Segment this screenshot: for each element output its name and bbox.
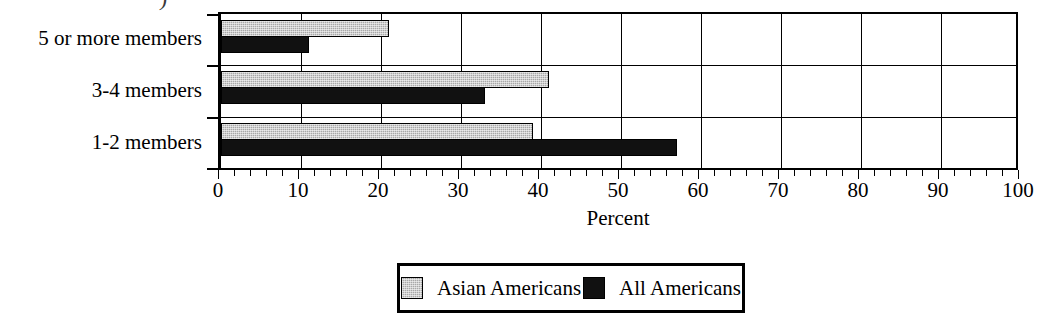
xtick-minor-34: [490, 170, 491, 176]
xtick-minor-12: [314, 170, 315, 176]
xtick-label-100: 100: [1002, 178, 1034, 202]
xtick-minor-92: [954, 170, 955, 176]
bar-all-americans-3-4[interactable]: [221, 87, 485, 104]
x-axis-tick-labels: 0 10 20 30 40 50 60 70 80 90 100: [0, 178, 1045, 204]
xtick-label-40: 40: [528, 178, 549, 202]
xtick-minor-28: [442, 170, 443, 176]
bar-all-americans-5-or-more[interactable]: [221, 36, 309, 53]
xtick-minor-32: [474, 170, 475, 176]
xtick-minor-74: [810, 170, 811, 176]
xtick-minor-52: [634, 170, 635, 176]
xtick-minor-26: [426, 170, 427, 176]
xtick-minor-36: [506, 170, 507, 176]
xtick-minor-4: [250, 170, 251, 176]
legend-item-asian-americans[interactable]: Asian Americans: [401, 276, 581, 301]
xtick-minor-58: [682, 170, 683, 176]
chart-legend: Asian Americans All Americans: [397, 263, 745, 313]
category-label-5-or-more-members: 5 or more members: [38, 26, 202, 50]
xtick-minor-96: [986, 170, 987, 176]
xtick-minor-46: [586, 170, 587, 176]
xtick-label-10: 10: [288, 178, 309, 202]
xtick-minor-66: [746, 170, 747, 176]
xtick-minor-54: [650, 170, 651, 176]
xtick-minor-42: [554, 170, 555, 176]
category-label-3-4-members: 3-4 members: [92, 78, 202, 102]
xtick-minor-64: [730, 170, 731, 176]
bar-group-5-or-more-members: [221, 14, 1016, 65]
category-label-1-2-members: 1-2 members: [92, 130, 202, 154]
xtick-label-50: 50: [608, 178, 629, 202]
xtick-label-70: 70: [768, 178, 789, 202]
bar-group-3-4-members: [221, 65, 1016, 117]
xtick-minor-2: [234, 170, 235, 176]
legend-item-all-americans[interactable]: All Americans: [583, 276, 741, 301]
xtick-minor-94: [970, 170, 971, 176]
xtick-minor-8: [282, 170, 283, 176]
legend-swatch-black-icon: [583, 277, 605, 299]
xtick-minor-72: [794, 170, 795, 176]
xtick-label-90: 90: [928, 178, 949, 202]
legend-label-asian-americans: Asian Americans: [437, 276, 581, 301]
legend-swatch-gray-icon: [401, 277, 423, 299]
xtick-label-60: 60: [688, 178, 709, 202]
xtick-minor-22: [394, 170, 395, 176]
xtick-label-20: 20: [368, 178, 389, 202]
xtick-minor-16: [346, 170, 347, 176]
y-axis-category-labels: 5 or more members 3-4 members 1-2 member…: [0, 12, 210, 170]
legend-label-all-americans: All Americans: [619, 276, 741, 301]
xtick-minor-62: [714, 170, 715, 176]
xtick-minor-76: [826, 170, 827, 176]
xtick-minor-44: [570, 170, 571, 176]
bar-asian-americans-5-or-more[interactable]: [221, 20, 389, 37]
xtick-minor-6: [266, 170, 267, 176]
xtick-minor-14: [330, 170, 331, 176]
bar-group-1-2-members: [221, 117, 1016, 169]
xtick-label-0: 0: [213, 178, 224, 202]
bar-all-americans-1-2[interactable]: [221, 139, 677, 156]
xtick-minor-98: [1002, 170, 1003, 176]
xtick-minor-82: [874, 170, 875, 176]
xtick-label-80: 80: [848, 178, 869, 202]
bar-asian-americans-1-2[interactable]: [221, 123, 533, 140]
chart-plot-area: [218, 12, 1018, 170]
cropped-title-fragment: ): [159, 0, 169, 12]
xtick-label-30: 30: [448, 178, 469, 202]
xtick-minor-18: [362, 170, 363, 176]
xtick-minor-38: [522, 170, 523, 176]
xtick-minor-24: [410, 170, 411, 176]
xtick-minor-88: [922, 170, 923, 176]
bar-asian-americans-3-4[interactable]: [221, 71, 549, 88]
xtick-minor-86: [906, 170, 907, 176]
xtick-minor-48: [602, 170, 603, 176]
xtick-minor-68: [762, 170, 763, 176]
x-axis-title: Percent: [218, 206, 1018, 231]
xtick-minor-56: [666, 170, 667, 176]
xtick-minor-84: [890, 170, 891, 176]
xtick-minor-78: [842, 170, 843, 176]
